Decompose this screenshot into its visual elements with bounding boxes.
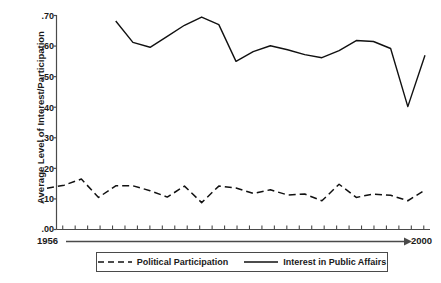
chart-legend: Political Participation Interest in Publ… [96, 252, 388, 272]
x-axis-arrow-group [66, 238, 412, 246]
chart-figure: Average Level of Interest/Participation … [0, 0, 441, 283]
legend-label-interest-public-affairs: Interest in Public Affairs [283, 257, 386, 267]
x-axis-arrow-head [404, 238, 412, 246]
legend-item-interest-public-affairs: Interest in Public Affairs [244, 257, 386, 267]
legend-item-political-participation: Political Participation [98, 257, 229, 267]
series-line-interest-public-affairs [116, 17, 425, 107]
plot-area [0, 0, 441, 283]
legend-dashed-swatch-icon [98, 258, 132, 266]
series-line-political-participation [47, 179, 425, 203]
legend-solid-swatch-icon [244, 258, 278, 266]
axis-lines [57, 15, 431, 230]
legend-label-political-participation: Political Participation [137, 257, 229, 267]
